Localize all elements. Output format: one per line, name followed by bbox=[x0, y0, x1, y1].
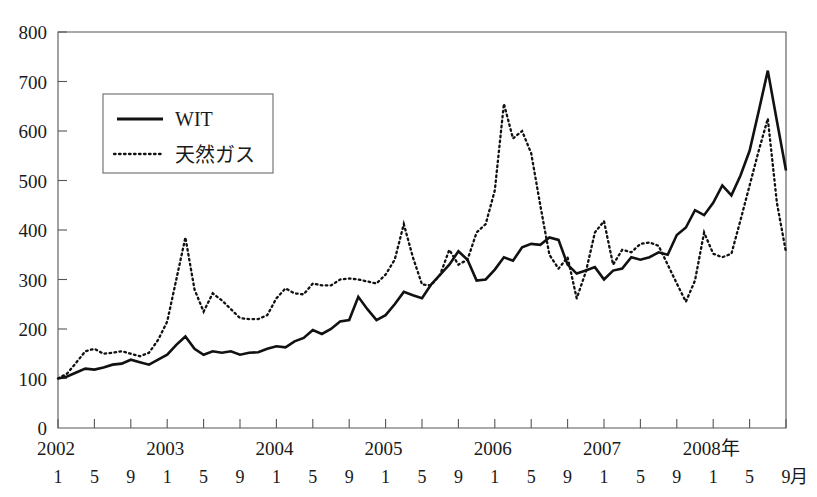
legend: WIT 天然ガス bbox=[103, 94, 273, 173]
price-index-line-chart: 0100200300400500600700800 15915915915915… bbox=[0, 0, 817, 497]
x-month-label: 5 bbox=[527, 467, 536, 487]
x-month-label: 5 bbox=[636, 467, 645, 487]
x-month-label: 5 bbox=[745, 467, 754, 487]
x-axis-year-labels: 2002200320042005200620072008年 bbox=[37, 438, 740, 459]
y-tick-label: 0 bbox=[38, 418, 48, 439]
x-month-label: 9 bbox=[126, 467, 135, 487]
y-tick-label: 500 bbox=[19, 171, 48, 192]
x-month-label: 5 bbox=[418, 467, 427, 487]
x-year-label: 2008年 bbox=[683, 438, 740, 459]
x-month-label: 1 bbox=[381, 467, 390, 487]
x-month-label: 1 bbox=[272, 467, 281, 487]
y-tick-label: 600 bbox=[19, 121, 48, 142]
y-tick-label: 800 bbox=[19, 22, 48, 43]
cropped-caption-text bbox=[0, 0, 30, 5]
x-month-label: 5 bbox=[90, 467, 99, 487]
y-tick-label: 400 bbox=[19, 220, 48, 241]
figure-container: 0100200300400500600700800 15915915915915… bbox=[0, 0, 817, 497]
x-year-label: 2006 bbox=[474, 438, 512, 459]
x-month-label: 1 bbox=[54, 467, 63, 487]
x-month-label: 1 bbox=[163, 467, 172, 487]
legend-label-natural-gas: 天然ガス bbox=[175, 144, 255, 166]
x-year-label: 2007 bbox=[583, 438, 621, 459]
x-month-label: 5 bbox=[308, 467, 317, 487]
plot-frame bbox=[58, 32, 786, 428]
x-month-label: 1 bbox=[600, 467, 609, 487]
x-month-label: 1 bbox=[709, 467, 718, 487]
x-year-label: 2002 bbox=[37, 438, 75, 459]
x-month-label: 9 bbox=[236, 467, 245, 487]
x-year-label: 2005 bbox=[365, 438, 403, 459]
month-unit-label: 月 bbox=[790, 467, 808, 487]
y-tick-label: 200 bbox=[19, 319, 48, 340]
x-year-label: 2003 bbox=[146, 438, 184, 459]
x-month-label: 9 bbox=[672, 467, 681, 487]
x-year-label: 2004 bbox=[255, 438, 294, 459]
legend-label-wit: WIT bbox=[175, 108, 213, 130]
y-tick-label: 300 bbox=[19, 270, 48, 291]
x-axis-month-labels: 159159159159159159159 bbox=[54, 467, 791, 487]
x-month-label: 9 bbox=[345, 467, 354, 487]
y-tick-label: 700 bbox=[19, 72, 48, 93]
x-axis-ticks bbox=[58, 419, 786, 428]
x-month-label: 9 bbox=[454, 467, 463, 487]
cropped-caption-strip bbox=[0, 0, 817, 5]
x-month-label: 5 bbox=[199, 467, 208, 487]
x-month-label: 9 bbox=[563, 467, 572, 487]
x-month-label: 1 bbox=[490, 467, 499, 487]
y-axis: 0100200300400500600700800 bbox=[19, 22, 68, 439]
y-tick-label: 100 bbox=[19, 369, 48, 390]
